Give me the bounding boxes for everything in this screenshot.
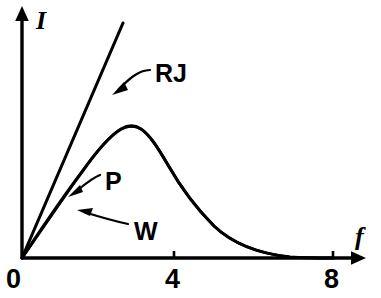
x-tick-label-0: 0 [6, 264, 21, 294]
chart-canvas: 0 4 8 RJ P W I f [0, 0, 381, 298]
y-axis-arrowhead [15, 6, 29, 21]
x-tick-label-4: 4 [165, 264, 180, 294]
x-axis-arrowhead [351, 251, 366, 265]
x-axis-label: f [355, 222, 366, 251]
series-label-planck: P [105, 167, 122, 195]
y-axis-label: I [35, 6, 47, 35]
series-label-wien: W [134, 217, 158, 245]
x-tick-label-8: 8 [324, 264, 339, 294]
blackbody-spectrum-figure: 0 4 8 RJ P W I f [0, 0, 381, 298]
series-label-rayleigh-jeans: RJ [155, 59, 187, 87]
